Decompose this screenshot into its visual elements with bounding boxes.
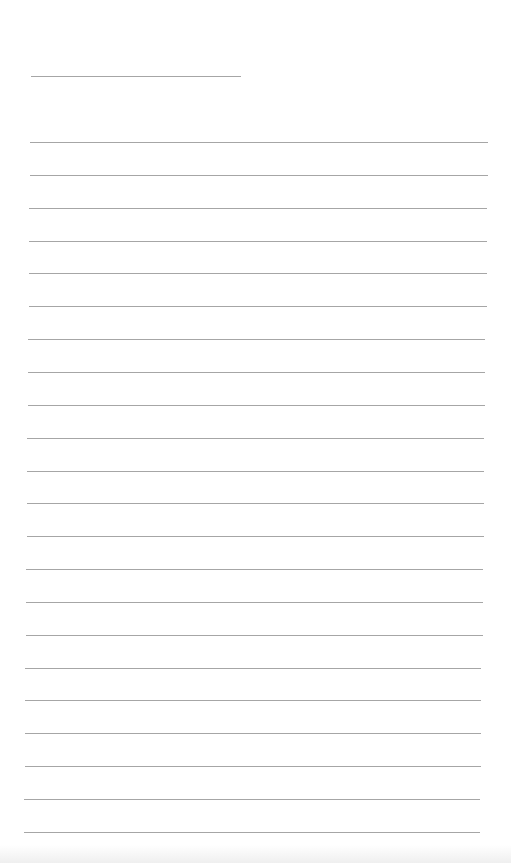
ruled-line xyxy=(26,569,483,570)
lined-paper-page xyxy=(0,0,511,863)
ruled-line xyxy=(25,766,481,767)
ruled-line xyxy=(28,339,485,340)
ruled-line xyxy=(28,405,485,406)
ruled-line xyxy=(29,273,487,274)
ruled-line xyxy=(30,175,488,176)
ruled-line xyxy=(25,700,481,701)
ruled-line xyxy=(27,438,484,439)
ruled-line xyxy=(27,503,484,504)
ruled-line xyxy=(28,372,485,373)
ruled-line xyxy=(29,306,487,307)
ruled-line xyxy=(27,536,484,537)
ruled-line xyxy=(30,142,488,143)
ruled-line xyxy=(26,635,483,636)
title-line xyxy=(31,76,241,77)
ruled-line xyxy=(25,733,481,734)
ruled-line xyxy=(26,602,483,603)
ruled-line xyxy=(25,668,481,669)
ruled-line xyxy=(27,471,484,472)
ruled-line xyxy=(24,799,480,800)
ruled-line xyxy=(29,208,487,209)
page-bottom-shadow xyxy=(0,845,511,863)
ruled-line xyxy=(24,832,480,833)
ruled-line xyxy=(29,241,487,242)
